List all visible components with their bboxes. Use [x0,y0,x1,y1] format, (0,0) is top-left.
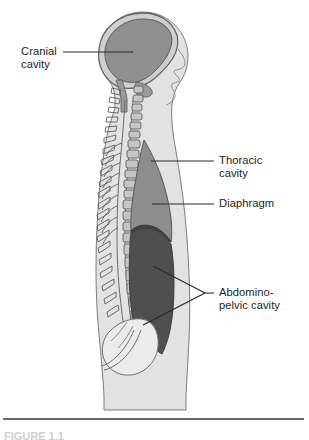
label-thoracic-cavity-line2: cavity [219,167,248,179]
label-thoracic-cavity-line1: Thoracic [219,154,262,166]
label-cranial-cavity: Cranialcavity [21,45,57,72]
label-thoracic-cavity: Thoraciccavity [219,154,262,181]
figure-root: Cranialcavity Thoraciccavity Diaphragm A… [0,0,309,440]
label-diaphragm: Diaphragm [219,197,274,210]
label-diaphragm-line1: Diaphragm [219,197,274,209]
label-abdominopelvic-cavity-line1: Abdomino- [219,286,274,298]
label-cranial-cavity-line2: cavity [21,58,50,70]
label-abdominopelvic-cavity-line2: pelvic cavity [219,299,280,311]
label-abdominopelvic-cavity: Abdomino-pelvic cavity [219,286,280,313]
figure-caption: FIGURE 1.1 [4,430,64,440]
label-cranial-cavity-line1: Cranial [21,45,57,57]
